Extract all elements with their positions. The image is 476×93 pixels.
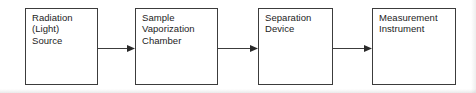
block-sample-vaporization-chamber-label: Sample Vaporization Chamber [142, 12, 215, 46]
block-separation-device-label: Separation Device [265, 12, 330, 35]
block-separation-device[interactable]: Separation Device [258, 8, 333, 85]
arrow-chamber-to-separation [218, 44, 258, 53]
scan-edge-shading-bottom [0, 89, 476, 93]
arrow-source-to-chamber [98, 44, 135, 53]
block-measurement-instrument[interactable]: Measurement Instrument [372, 8, 456, 85]
scan-edge-shading-right [471, 0, 476, 93]
arrow-separation-to-measurement [333, 44, 372, 53]
block-sample-vaporization-chamber[interactable]: Sample Vaporization Chamber [135, 8, 218, 85]
diagram-canvas: Radiation (Light) Source Sample Vaporiza… [0, 0, 476, 93]
block-radiation-source-label: Radiation (Light) Source [32, 12, 95, 46]
block-measurement-instrument-label: Measurement Instrument [379, 12, 453, 35]
block-radiation-source[interactable]: Radiation (Light) Source [25, 8, 98, 85]
